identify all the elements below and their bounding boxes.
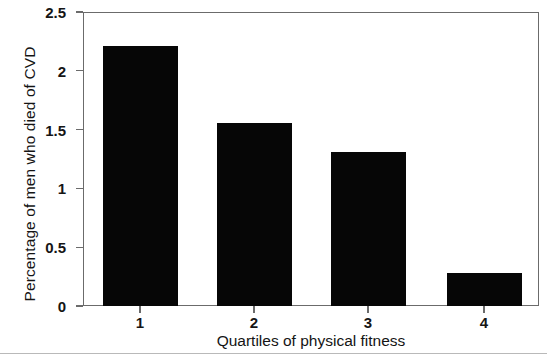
y-tick-label: 2 — [6, 62, 66, 79]
bar — [331, 152, 406, 306]
x-tick-label: 3 — [338, 314, 398, 331]
x-axis-title: Quartiles of physical fitness — [83, 332, 539, 350]
page-rule — [0, 353, 547, 354]
x-tick-mark — [483, 306, 484, 313]
x-tick-mark — [367, 306, 368, 313]
bar — [217, 123, 292, 306]
y-tick-label: 0.5 — [6, 239, 66, 256]
y-tick-mark — [76, 129, 83, 130]
y-tick-mark — [76, 188, 83, 189]
y-tick-label: 1.5 — [6, 121, 66, 138]
bar — [447, 273, 522, 306]
x-tick-label: 2 — [224, 314, 284, 331]
y-tick-mark — [76, 70, 83, 71]
y-tick-mark — [76, 11, 83, 12]
y-tick-mark — [76, 247, 83, 248]
y-tick-label: 0 — [6, 298, 66, 315]
bar — [103, 46, 178, 306]
y-tick-label: 2.5 — [6, 4, 66, 21]
bar-chart-figure: Percentage of men who died of CVD 00.511… — [0, 0, 547, 362]
y-tick-mark — [76, 305, 83, 306]
y-tick-label: 1 — [6, 180, 66, 197]
x-tick-mark — [139, 306, 140, 313]
x-tick-label: 4 — [454, 314, 514, 331]
x-tick-label: 1 — [110, 314, 170, 331]
x-tick-mark — [253, 306, 254, 313]
